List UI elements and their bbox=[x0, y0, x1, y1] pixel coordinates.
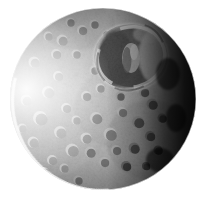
image-viewport: Grayscale photograph of Saturn's moon Mi… bbox=[0, 0, 205, 198]
mimas-photograph bbox=[0, 0, 205, 198]
